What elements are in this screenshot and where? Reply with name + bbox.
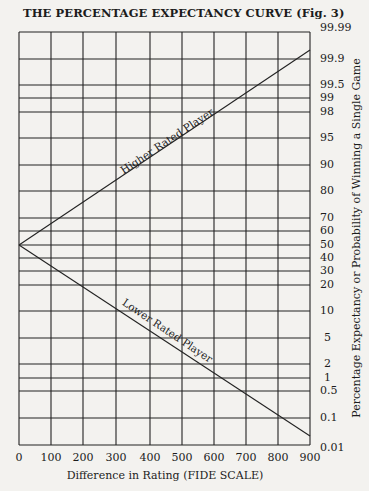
y-axis-label: Percentage Expectancy or Probability of … [350, 58, 363, 418]
y-tick-label: 99.99 [320, 22, 352, 33]
x-tick-label: 300 [106, 451, 127, 464]
y-tick-label: 40 [320, 252, 334, 263]
y-tick-label: 50 [320, 239, 334, 250]
grid-lines [19, 32, 310, 445]
y-tick-label: 10 [320, 305, 334, 316]
x-tick-label: 200 [73, 451, 94, 464]
x-tick-label: 400 [140, 451, 161, 464]
y-tick-label: 5 [324, 332, 331, 343]
y-tick-label: 70 [320, 212, 334, 223]
y-tick-label: 80 [320, 185, 334, 196]
y-tick-label: 95 [320, 132, 334, 143]
x-tick-label: 100 [41, 451, 62, 464]
lower-rated-line [19, 245, 310, 436]
y-tick-label: 0.01 [320, 442, 345, 453]
y-tick-label: 98 [320, 106, 334, 117]
x-tick-label: 900 [300, 451, 321, 464]
y-tick-label: 1 [324, 372, 331, 383]
x-axis-label: Difference in Rating (FIDE SCALE) [67, 469, 264, 482]
x-tick-label: 500 [172, 451, 193, 464]
y-tick-label: 60 [320, 225, 334, 236]
y-tick-label: 30 [320, 265, 334, 276]
y-tick-label: 2 [324, 358, 331, 369]
y-tick-label: 20 [320, 279, 334, 290]
x-tick-label: 600 [204, 451, 225, 464]
plot-area [0, 0, 369, 491]
x-tick-label: 0 [16, 451, 23, 464]
y-tick-label: 99.9 [320, 53, 345, 64]
x-tick-label: 700 [236, 451, 257, 464]
y-tick-label: 99.5 [320, 79, 345, 90]
x-tick-label: 800 [268, 451, 289, 464]
y-tick-label: 90 [320, 159, 334, 170]
y-tick-label: 0.5 [320, 385, 338, 396]
y-tick-label: 99 [320, 92, 334, 103]
y-tick-label: 0.1 [320, 412, 338, 423]
